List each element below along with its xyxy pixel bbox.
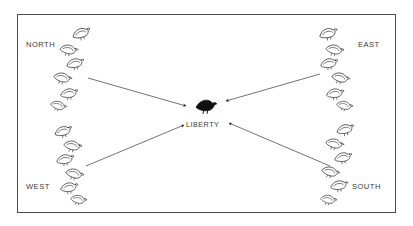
flock-south <box>320 123 356 207</box>
label-east: EAST <box>358 40 380 49</box>
diagram-canvas: NORTH EAST WEST SOUTH LIBERTY <box>0 0 413 226</box>
label-west: WEST <box>26 182 50 191</box>
label-south: SOUTH <box>352 182 381 191</box>
label-north: NORTH <box>26 40 55 49</box>
flock-north <box>49 26 93 114</box>
label-liberty: LIBERTY <box>186 120 219 129</box>
diagram-graphics <box>0 0 413 226</box>
arrow-north-to-liberty <box>88 78 186 106</box>
liberty-figure <box>196 100 217 114</box>
flock-west <box>54 124 88 207</box>
flock-east <box>318 26 353 113</box>
arrow-south-to-liberty <box>229 123 330 166</box>
arrow-east-to-liberty <box>226 74 320 101</box>
arrow-west-to-liberty <box>86 125 184 166</box>
